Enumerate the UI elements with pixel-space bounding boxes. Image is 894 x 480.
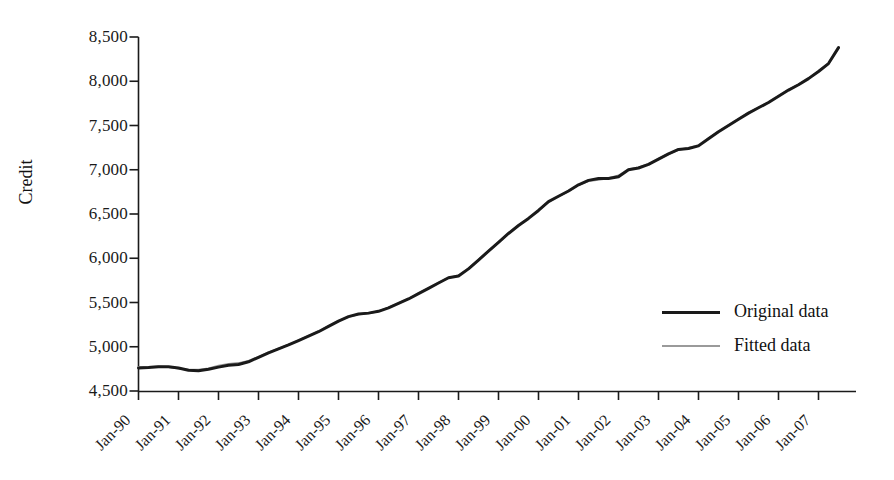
- legend-label-fitted: Fitted data: [734, 335, 810, 355]
- y-axis-ticks: [130, 37, 139, 391]
- data-series-lines: [139, 48, 839, 371]
- x-axis-ticks: [139, 391, 819, 400]
- legend-line-original-icon: [662, 311, 720, 314]
- credit-line-chart: Credit 4,5005,0005,5006,0006,5007,0007,5…: [0, 0, 894, 480]
- plot-area: [0, 0, 894, 480]
- series-line-fitted-data: [139, 48, 839, 370]
- legend-line-fitted-icon: [662, 345, 720, 347]
- legend-label-original: Original data: [734, 301, 828, 321]
- series-line-original-data: [139, 48, 839, 371]
